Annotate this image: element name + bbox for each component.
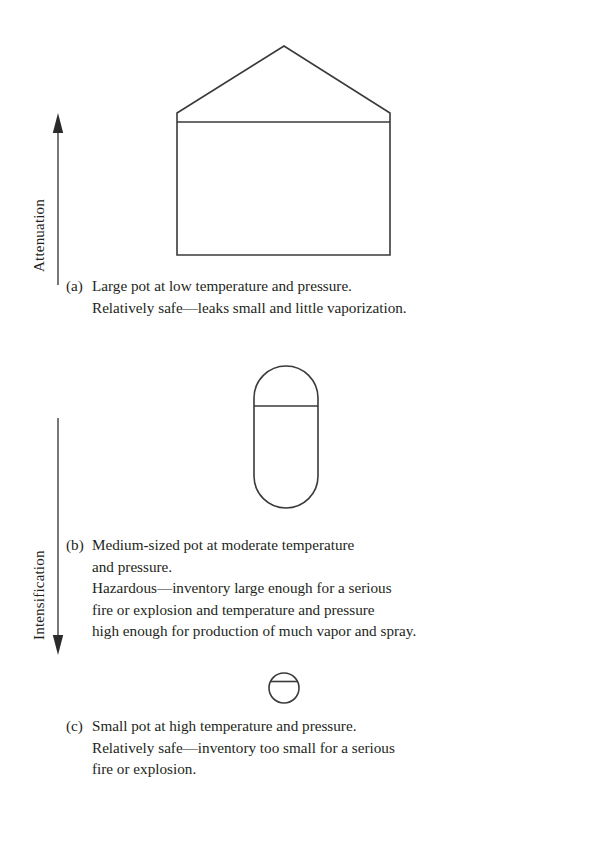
- caption-a-line-2: Relatively safe—leaks small and little v…: [66, 297, 407, 319]
- caption-c-text-3: fire or explosion.: [92, 760, 196, 777]
- vessel-large-cone-roof-tank: [177, 46, 390, 255]
- caption-a: (a)Large pot at low temperature and pres…: [66, 275, 407, 318]
- caption-a-text-1: Large pot at low temperature and pressur…: [92, 277, 352, 294]
- intensification-arrow: [53, 418, 63, 655]
- caption-b-text-3: Hazardous—inventory large enough for a s…: [92, 579, 392, 596]
- caption-b-tag: (b): [66, 534, 92, 556]
- caption-c-line-1: (c)Small pot at high temperature and pre…: [66, 715, 395, 737]
- caption-a-tag: (a): [66, 275, 92, 297]
- caption-b-line-4: fire or explosion and temperature and pr…: [66, 599, 416, 621]
- caption-b-line-2: and pressure.: [66, 556, 416, 578]
- caption-b-text-4: fire or explosion and temperature and pr…: [92, 601, 375, 618]
- vessel-small-sphere: [269, 673, 299, 703]
- caption-b-line-3: Hazardous—inventory large enough for a s…: [66, 577, 416, 599]
- caption-b-line-1: (b)Medium-sized pot at moderate temperat…: [66, 534, 416, 556]
- caption-c: (c)Small pot at high temperature and pre…: [66, 715, 395, 780]
- caption-a-text-2: Relatively safe—leaks small and little v…: [92, 299, 407, 316]
- figure-canvas: Attenuation Intensification: [0, 0, 593, 851]
- caption-c-line-3: fire or explosion.: [66, 758, 395, 780]
- caption-b-line-5: high enough for production of much vapor…: [66, 620, 416, 642]
- caption-c-line-2: Relatively safe—inventory too small for …: [66, 737, 395, 759]
- caption-b: (b)Medium-sized pot at moderate temperat…: [66, 534, 416, 642]
- vessel-medium-capsule: [254, 366, 318, 508]
- caption-c-text-2: Relatively safe—inventory too small for …: [92, 739, 395, 756]
- caption-c-text-1: Small pot at high temperature and pressu…: [92, 717, 356, 734]
- caption-c-tag: (c): [66, 715, 92, 737]
- caption-b-text-5: high enough for production of much vapor…: [92, 622, 416, 639]
- caption-b-text-1: Medium-sized pot at moderate temperature: [92, 536, 354, 553]
- caption-b-text-2: and pressure.: [92, 558, 172, 575]
- attenuation-arrow: [53, 113, 63, 285]
- caption-a-line-1: (a)Large pot at low temperature and pres…: [66, 275, 407, 297]
